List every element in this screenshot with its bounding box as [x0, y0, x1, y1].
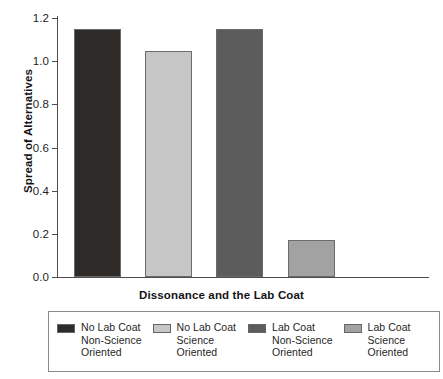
legend-item: No Lab Coat Science Oriented — [153, 321, 249, 359]
legend-items: No Lab Coat Non-Science OrientedNo Lab C… — [49, 312, 439, 371]
x-axis-line — [57, 277, 429, 278]
legend-item: No Lab Coat Non-Science Oriented — [57, 321, 153, 359]
legend-color-swatch — [248, 324, 266, 333]
y-axis-tick-label: 0.8 — [33, 96, 49, 112]
y-axis-tick-mark — [52, 277, 57, 278]
y-axis-tick: 0.2 — [0, 234, 57, 235]
legend-item: Lab Coat Science Oriented — [344, 321, 440, 359]
y-axis-tick-label: 0.6 — [33, 140, 49, 156]
bars-layer — [57, 14, 429, 277]
bar — [145, 51, 192, 277]
bar — [216, 29, 263, 277]
legend-item-label: Lab Coat Non-Science Oriented — [272, 321, 333, 359]
legend-item: Lab Coat Non-Science Oriented — [248, 321, 344, 359]
legend-box: No Lab Coat Non-Science OrientedNo Lab C… — [48, 311, 440, 372]
y-axis-tick-label: 0.4 — [33, 183, 49, 199]
bar — [74, 29, 121, 277]
legend-color-swatch — [57, 324, 75, 333]
y-axis-tick: 1.2 — [0, 18, 57, 19]
y-axis-tick-label: 0.0 — [33, 269, 49, 285]
y-axis-tick-label: 1.2 — [33, 10, 49, 26]
legend-item-label: No Lab Coat Non-Science Oriented — [81, 321, 142, 359]
bar-chart-figure: 1.21.00.80.60.40.20.0 Spread of Alternat… — [0, 0, 443, 379]
legend-item-label: Lab Coat Science Oriented — [368, 321, 411, 359]
y-axis-title: Spread of Alternatives — [22, 41, 34, 221]
y-axis-tick-label: 0.2 — [33, 226, 49, 242]
legend-color-swatch — [344, 324, 362, 333]
x-axis-title: Dissonance and the Lab Coat — [0, 289, 443, 301]
bar — [288, 240, 335, 277]
y-axis-tick: 0.0 — [0, 277, 57, 278]
legend-item-label: No Lab Coat Science Oriented — [177, 321, 237, 359]
y-axis-tick-label: 1.0 — [33, 53, 49, 69]
legend-color-swatch — [153, 324, 171, 333]
